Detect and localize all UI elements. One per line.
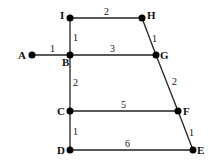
label-H: H [147, 9, 156, 21]
label-A: A [18, 49, 26, 61]
node-A [29, 52, 36, 59]
weight-G-F: 2 [172, 76, 177, 87]
label-D: D [57, 144, 65, 156]
weight-I-H: 2 [104, 6, 109, 17]
node-G [153, 52, 160, 59]
weight-F-E: 1 [189, 127, 194, 138]
node-H [139, 15, 146, 22]
weight-B-C: 2 [73, 77, 78, 88]
node-I [67, 15, 74, 22]
node-D [67, 147, 74, 154]
weight-B-G: 3 [110, 43, 115, 54]
graph-diagram: 1 1 2 1 3 2 2 5 1 1 6 A B C D E F G H I [0, 0, 214, 164]
weight-C-D: 1 [73, 126, 78, 137]
label-F: F [183, 105, 190, 117]
label-B: B [62, 56, 70, 68]
label-C: C [57, 105, 65, 117]
label-E: E [197, 144, 204, 156]
weight-C-F: 5 [121, 99, 126, 110]
node-E [190, 147, 197, 154]
node-C [67, 108, 74, 115]
label-I: I [60, 9, 64, 21]
weight-H-G: 1 [152, 33, 157, 44]
node-F [175, 108, 182, 115]
label-G: G [160, 49, 169, 61]
weight-D-E: 6 [125, 138, 130, 149]
weight-I-B: 1 [73, 32, 78, 43]
weight-A-B: 1 [50, 43, 55, 54]
